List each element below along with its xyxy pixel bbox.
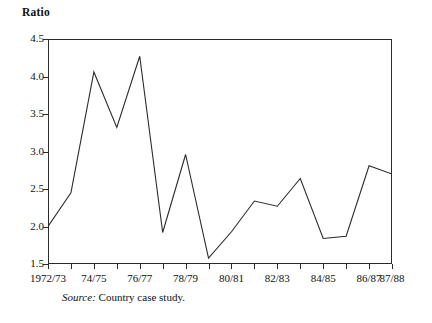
x-tick-mark [94, 264, 95, 269]
x-tick-mark [323, 264, 324, 269]
x-tick-mark [254, 264, 255, 269]
x-tick-mark [209, 264, 210, 269]
x-tick-mark [369, 264, 370, 269]
chart-figure: Ratio 1.52.02.53.03.54.04.5 1972/7374/75… [0, 0, 432, 323]
source-note: Source: Country case study. [62, 291, 185, 303]
x-tick-mark [231, 264, 232, 269]
x-tick-mark [71, 264, 72, 269]
x-axis-tick-labels: 1972/7374/7576/7778/7980/8182/8384/8586/… [0, 0, 432, 323]
x-tick-mark [186, 264, 187, 269]
x-tick-mark [346, 264, 347, 269]
x-tick-mark [300, 264, 301, 269]
x-tick-label: 87/88 [352, 273, 432, 284]
source-label: Source: [62, 291, 96, 303]
x-tick-mark [163, 264, 164, 269]
source-text: Country case study. [99, 291, 185, 303]
x-tick-mark [140, 264, 141, 269]
x-tick-mark [48, 264, 49, 269]
x-tick-mark [277, 264, 278, 269]
x-tick-mark [392, 264, 393, 269]
x-tick-mark [117, 264, 118, 269]
